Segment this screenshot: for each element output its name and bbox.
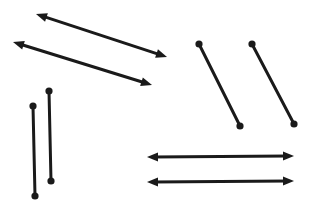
figure-svg bbox=[0, 0, 323, 209]
double-arrow-horizontal-lower-head-end bbox=[283, 177, 294, 186]
dumbbell-diagonal-left bbox=[195, 40, 243, 129]
double-arrow-diagonal-upper-shaft bbox=[42, 16, 162, 55]
double-arrow-diagonal-upper-head-start bbox=[36, 13, 48, 22]
double-arrow-diagonal-upper-head-end bbox=[155, 49, 167, 58]
dumbbell-vertical-right-dot-end bbox=[47, 177, 54, 184]
double-arrow-diagonal-lower-shaft bbox=[19, 44, 146, 83]
figure-canvas bbox=[0, 0, 323, 209]
dumbbell-diagonal-right-dot-start bbox=[248, 40, 255, 47]
dumbbell-diagonal-left-shaft bbox=[199, 44, 240, 126]
double-arrow-diagonal-lower-head-start bbox=[13, 41, 25, 50]
double-arrow-horizontal-lower bbox=[147, 177, 294, 187]
dumbbell-diagonal-right-dot-end bbox=[290, 120, 297, 127]
dumbbell-vertical-left bbox=[29, 102, 38, 199]
double-arrow-horizontal-upper-shaft bbox=[153, 156, 288, 157]
shape-layer bbox=[13, 13, 298, 199]
dumbbell-vertical-right-dot-start bbox=[45, 87, 52, 94]
double-arrow-horizontal-lower-shaft bbox=[153, 181, 288, 182]
dumbbell-vertical-left-dot-end bbox=[31, 192, 38, 199]
dumbbell-diagonal-left-dot-start bbox=[195, 40, 202, 47]
dumbbell-vertical-right-shaft bbox=[49, 91, 51, 181]
dumbbell-vertical-left-dot-start bbox=[29, 102, 36, 109]
double-arrow-diagonal-upper bbox=[36, 13, 167, 58]
dumbbell-diagonal-left-dot-end bbox=[236, 122, 243, 129]
dumbbell-vertical-right bbox=[45, 87, 54, 184]
double-arrow-diagonal-lower-head-end bbox=[140, 77, 152, 86]
double-arrow-horizontal-upper bbox=[147, 152, 294, 162]
double-arrow-horizontal-upper-head-end bbox=[283, 152, 294, 161]
dumbbell-diagonal-right-shaft bbox=[252, 44, 294, 124]
double-arrow-horizontal-upper-head-start bbox=[147, 152, 158, 161]
dumbbell-diagonal-right bbox=[248, 40, 297, 127]
double-arrow-diagonal-lower bbox=[13, 41, 152, 86]
dumbbell-vertical-left-shaft bbox=[33, 106, 35, 196]
double-arrow-horizontal-lower-head-start bbox=[147, 177, 158, 186]
